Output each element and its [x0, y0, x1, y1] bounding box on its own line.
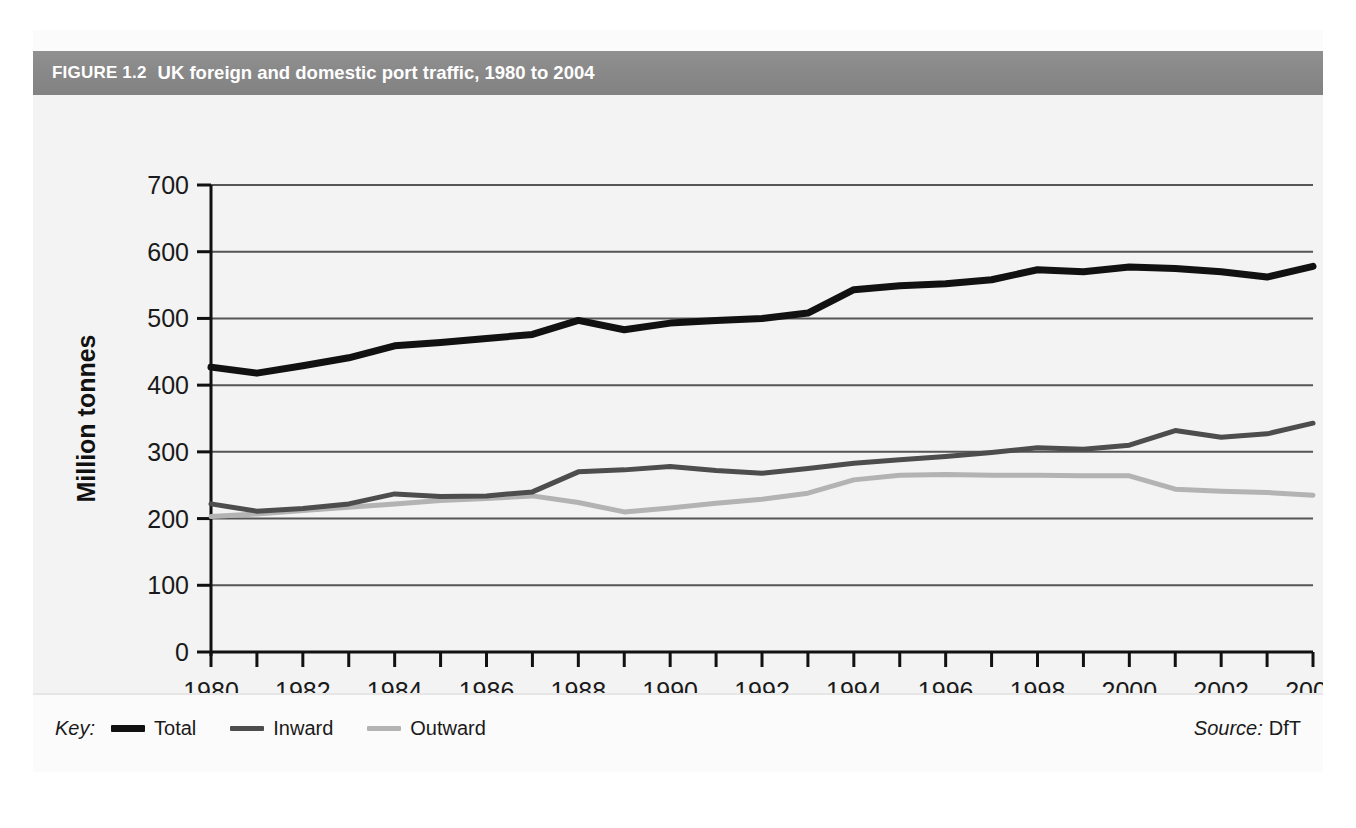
y-tick-label: 500 — [147, 304, 189, 332]
y-tick-label: 200 — [147, 505, 189, 533]
legend-item-inward[interactable]: Inward — [230, 717, 333, 740]
y-tick-label: 300 — [147, 438, 189, 466]
figure-number: FIGURE 1.2 — [52, 63, 147, 83]
legend-divider — [33, 693, 1323, 695]
line-chart: 0100200300400500600700 19801982198419861… — [33, 95, 1323, 695]
legend-swatch-outward-icon — [367, 726, 401, 731]
legend-item-outward[interactable]: Outward — [367, 717, 486, 740]
y-tick-label: 600 — [147, 238, 189, 266]
gridlines-group — [211, 185, 1313, 652]
figure-card: FIGURE 1.2 UK foreign and domestic port … — [33, 30, 1323, 772]
y-tick-label: 400 — [147, 371, 189, 399]
source-block: Source: DfT — [1194, 717, 1301, 740]
legend-items: TotalInwardOutward — [111, 717, 520, 740]
y-tick-label: 100 — [147, 571, 189, 599]
figure-title: UK foreign and domestic port traffic, 19… — [158, 62, 595, 84]
legend-item-total[interactable]: Total — [111, 717, 196, 740]
source-label: Source: — [1194, 717, 1263, 740]
y-axis: 0100200300400500600700 — [147, 171, 211, 666]
x-axis: 1980198219841986198819901992199419961998… — [183, 652, 1323, 695]
chart-legend: Key: TotalInwardOutward Source: DfT — [33, 702, 1323, 754]
chart-plot-region: 0100200300400500600700 19801982198419861… — [33, 95, 1323, 695]
legend-key-label: Key: — [55, 717, 95, 740]
y-tick-label: 0 — [175, 638, 189, 666]
y-axis-title: Million tonnes — [72, 334, 100, 502]
legend-swatch-inward-icon — [230, 726, 264, 731]
data-series-group — [211, 266, 1313, 516]
figure-header-band: FIGURE 1.2 UK foreign and domestic port … — [33, 51, 1323, 95]
series-line-total — [211, 266, 1313, 373]
legend-label: Inward — [273, 717, 333, 740]
source-value: DfT — [1269, 717, 1301, 740]
legend-label: Outward — [410, 717, 486, 740]
y-tick-label: 700 — [147, 171, 189, 199]
y-axis-title-label: Million tonnes — [72, 334, 100, 502]
legend-label: Total — [154, 717, 196, 740]
legend-swatch-total-icon — [111, 725, 145, 732]
